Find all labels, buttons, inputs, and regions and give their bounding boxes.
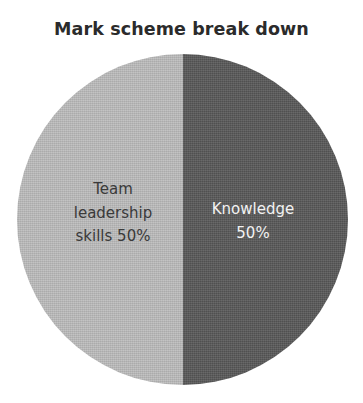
pie-slice-label-knowledge: Knowledge 50% <box>190 198 316 245</box>
pie-slice-label-team-leadership-skills: Team leadership skills 50% <box>45 178 181 249</box>
chart-title: Mark scheme break down <box>0 18 363 40</box>
pie-chart-figure: Mark scheme break down Team leadership s… <box>0 0 363 403</box>
